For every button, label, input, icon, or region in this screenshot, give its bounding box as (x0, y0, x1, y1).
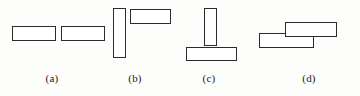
rect-b-vertical (113, 8, 126, 58)
caption-c: (c) (197, 72, 221, 84)
figure-container: (a) (b) (c) (d) (0, 0, 360, 96)
rect-c-vertical (204, 8, 217, 46)
rect-a-right (61, 26, 105, 41)
caption-b: (b) (123, 72, 147, 84)
rect-c-base (186, 47, 237, 61)
rect-d-upper (285, 22, 337, 37)
rect-b-horizontal (130, 9, 171, 24)
rect-a-left (12, 26, 56, 41)
caption-d: (d) (297, 72, 321, 84)
caption-a: (a) (40, 72, 64, 84)
